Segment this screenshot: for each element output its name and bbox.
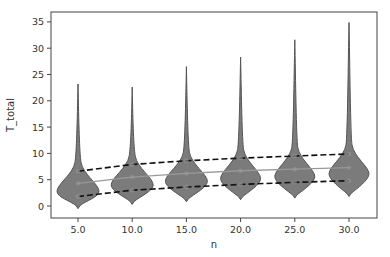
upper-marker [238, 156, 242, 160]
y-axis-label: T_total [5, 98, 17, 133]
violin-body [221, 57, 261, 200]
y-tick-label: 5 [38, 174, 44, 185]
upper-marker [76, 169, 80, 173]
y-tick-label: 0 [38, 201, 44, 212]
y-tick-label: 30 [32, 43, 44, 54]
y-tick-label: 35 [32, 16, 44, 27]
lower-marker [238, 182, 242, 186]
plot-frame [51, 12, 377, 218]
upper-marker [347, 152, 351, 156]
violin-body [165, 67, 207, 202]
violin-chart: 05101520253035 5.010.015.020.025.030.0 n… [0, 0, 390, 257]
x-tick-label: 5.0 [70, 224, 85, 235]
mean-marker [293, 167, 297, 171]
y-tick-label: 15 [32, 122, 44, 133]
lower-marker [184, 185, 188, 189]
violin-body [57, 84, 99, 209]
upper-marker [184, 159, 188, 163]
y-tick-label: 25 [32, 69, 44, 80]
violin-body [111, 87, 153, 204]
violin-body [329, 22, 369, 196]
lower-marker [76, 194, 80, 198]
mean-marker [130, 175, 134, 179]
upper-marker [293, 154, 297, 158]
x-axis-label: n [211, 239, 217, 250]
y-axis-ticks: 05101520253035 [32, 16, 51, 211]
mean-marker [347, 165, 351, 169]
lower-marker [293, 180, 297, 184]
x-axis-ticks: 5.010.015.020.025.030.0 [70, 218, 359, 235]
y-tick-label: 20 [32, 95, 44, 106]
mean-marker [76, 181, 80, 185]
mean-marker [238, 169, 242, 173]
upper-marker [130, 162, 134, 166]
lower-marker [347, 179, 351, 183]
x-tick-label: 10.0 [122, 224, 143, 235]
mean-marker [184, 171, 188, 175]
x-tick-label: 15.0 [176, 224, 197, 235]
y-tick-label: 10 [32, 148, 44, 159]
x-tick-label: 30.0 [338, 224, 359, 235]
violin-body [275, 40, 315, 198]
x-tick-label: 25.0 [284, 224, 305, 235]
x-tick-label: 20.0 [230, 224, 251, 235]
lower-marker [130, 188, 134, 192]
